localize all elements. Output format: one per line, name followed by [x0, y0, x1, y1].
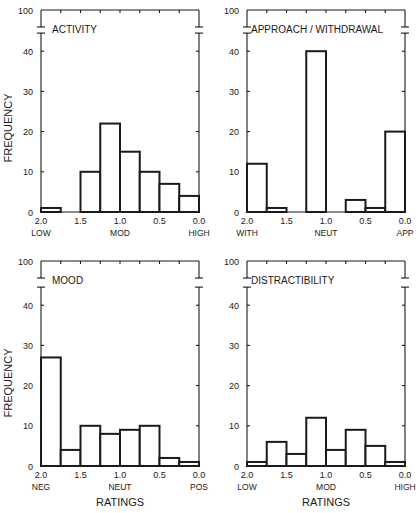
x-tick-label: 2.0 [241, 216, 254, 226]
x-anchor-label: LOW [237, 482, 256, 492]
x-tick-label: 1.5 [74, 216, 87, 226]
y-tick-label: 20 [23, 381, 33, 391]
histogram-bar [140, 426, 160, 466]
x-tick-label: 1.0 [320, 216, 333, 226]
x-tick-label: 2.0 [241, 470, 254, 480]
y-axis-label-top: FREQUENCY [2, 93, 14, 163]
histogram-bar [247, 462, 267, 466]
y-tick-label: 0 [234, 208, 239, 218]
x-tick-label: 1.5 [280, 216, 293, 226]
x-tick-label: 1.0 [114, 470, 127, 480]
histogram-bar [120, 430, 140, 466]
panel-activity: 010203040100ACTIVITY2.01.51.00.50.0LOWMO… [18, 6, 210, 239]
y-tick-label-100: 100 [224, 257, 239, 267]
y-tick-label: 30 [229, 341, 239, 351]
y-tick-label: 0 [28, 208, 33, 218]
panel-title: ACTIVITY [52, 24, 97, 35]
panel-title: MOOD [52, 275, 83, 286]
histogram-bar [267, 442, 287, 466]
x-anchor-label: HIGH [188, 228, 209, 238]
x-tick-label: 2.0 [35, 470, 48, 480]
x-tick-label: 1.0 [320, 470, 333, 480]
y-tick-label: 40 [229, 301, 239, 311]
y-tick-label: 40 [229, 47, 239, 57]
x-anchor-label: WITH [236, 228, 258, 238]
y-tick-label-100: 100 [18, 6, 33, 16]
x-tick-label: 0.0 [193, 216, 206, 226]
y-tick-label: 30 [23, 87, 33, 97]
x-tick-label: 1.5 [280, 470, 293, 480]
histogram-figure: 010203040100ACTIVITY2.01.51.00.50.0LOWMO… [0, 0, 419, 513]
x-anchor-label: MOD [110, 228, 130, 238]
y-axis-label-bottom: FREQUENCY [2, 348, 14, 418]
x-tick-label: 0.5 [359, 470, 372, 480]
y-tick-label: 30 [229, 87, 239, 97]
histogram-bar [267, 208, 287, 212]
histogram-bar [366, 208, 386, 212]
x-tick-label: 1.5 [74, 470, 87, 480]
y-tick-label: 0 [28, 462, 33, 472]
x-anchor-label: NEUT [108, 482, 131, 492]
histogram-bar [179, 196, 199, 212]
panel-mood: 010203040100MOOD2.01.51.00.50.0NEGNEUTPO… [18, 257, 208, 493]
histogram-bar [41, 208, 61, 212]
y-tick-label: 20 [23, 127, 33, 137]
x-anchor-label: NEUT [314, 228, 337, 238]
x-tick-label: 2.0 [35, 216, 48, 226]
x-axis-label-right: RATINGS [302, 496, 350, 508]
y-tick-label: 40 [23, 301, 33, 311]
histogram-bar [385, 462, 405, 466]
x-axis-label-left: RATINGS [96, 496, 144, 508]
y-tick-label: 10 [229, 421, 239, 431]
histogram-bar [41, 357, 61, 466]
histogram-bar [140, 172, 160, 212]
y-tick-label: 0 [234, 462, 239, 472]
x-anchor-label: APP [396, 228, 413, 238]
x-tick-label: 0.5 [153, 470, 166, 480]
histogram-bar [306, 51, 326, 212]
x-anchor-label: POS [190, 482, 208, 492]
histogram-bar [179, 462, 199, 466]
histogram-bar [100, 124, 120, 212]
y-tick-label: 20 [229, 127, 239, 137]
histogram-bar [120, 152, 140, 212]
x-anchor-label: MOD [316, 482, 336, 492]
x-tick-label: 0.0 [399, 216, 412, 226]
y-tick-label: 40 [23, 47, 33, 57]
x-anchor-label: LOW [31, 228, 50, 238]
y-tick-label: 10 [23, 167, 33, 177]
panel-approach-withdrawal: 010203040100APPROACH / WITHDRAWAL2.01.51… [224, 6, 414, 239]
histogram-bar [346, 430, 366, 466]
x-anchor-label: HIGH [394, 482, 415, 492]
y-tick-label: 10 [229, 167, 239, 177]
histogram-bar [81, 426, 101, 466]
histogram-bar [366, 446, 386, 466]
histogram-bar [160, 184, 180, 212]
x-tick-label: 1.0 [114, 216, 127, 226]
histogram-bar [247, 164, 267, 212]
histogram-bar [160, 458, 180, 466]
panel-title: DISTRACTIBILITY [251, 275, 335, 286]
x-tick-label: 0.0 [399, 470, 412, 480]
histogram-bar [287, 454, 307, 466]
y-tick-label-100: 100 [224, 6, 239, 16]
histogram-bar [306, 418, 326, 466]
y-tick-label-100: 100 [18, 257, 33, 267]
panel-title: APPROACH / WITHDRAWAL [251, 24, 383, 35]
histogram-bar [81, 172, 101, 212]
x-tick-label: 0.5 [359, 216, 372, 226]
x-anchor-label: NEG [32, 482, 50, 492]
histogram-bar [61, 450, 81, 466]
histogram-bar [385, 132, 405, 212]
x-tick-label: 0.5 [153, 216, 166, 226]
y-tick-label: 30 [23, 341, 33, 351]
y-tick-label: 10 [23, 421, 33, 431]
x-tick-label: 0.0 [193, 470, 206, 480]
histogram-bar [100, 434, 120, 466]
histogram-bar [346, 200, 366, 212]
histogram-bar [326, 450, 346, 466]
y-tick-label: 20 [229, 381, 239, 391]
panel-distractibility: 010203040100DISTRACTIBILITY2.01.51.00.50… [224, 257, 416, 493]
